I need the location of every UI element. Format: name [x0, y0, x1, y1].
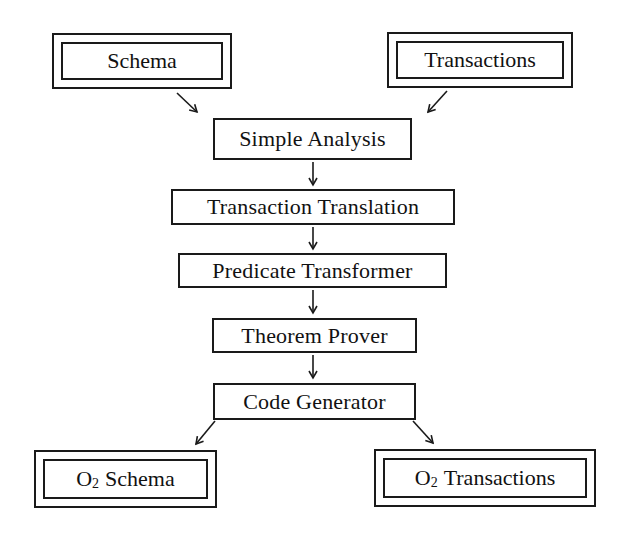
output-node-o2-transactions: O2Transactions [374, 449, 596, 507]
output-node-o2-transactions-prefix: O [415, 465, 431, 491]
output-node-o2-transactions-label: Transactions [444, 465, 556, 491]
step-transaction-translation-label: Transaction Translation [207, 194, 419, 220]
output-node-o2-schema-prefix: O [76, 466, 92, 492]
input-node-schema-label: Schema [107, 48, 177, 74]
input-node-schema: Schema [52, 33, 232, 89]
step-theorem-prover-label: Theorem Prover [241, 323, 387, 349]
output-node-o2-schema: O2Schema [34, 450, 217, 508]
input-node-schema-inner: Schema [61, 42, 223, 80]
step-simple-analysis: Simple Analysis [213, 118, 412, 160]
output-node-o2-schema-label: Schema [105, 466, 175, 492]
step-transaction-translation: Transaction Translation [171, 189, 455, 225]
step-predicate-transformer-label: Predicate Transformer [212, 258, 412, 284]
output-node-o2-schema-inner: O2Schema [43, 459, 208, 499]
output-node-o2-transactions-inner: O2Transactions [383, 458, 587, 498]
input-node-transactions-inner: Transactions [396, 41, 564, 79]
step-code-generator-label: Code Generator [243, 389, 386, 415]
output-node-o2-transactions-subscript: 2 [431, 475, 438, 491]
input-node-transactions: Transactions [387, 32, 573, 88]
arrow-code-generator-to-o2-schema [196, 421, 215, 444]
arrow-transactions-to-simple-analysis [428, 91, 447, 112]
input-node-transactions-label: Transactions [424, 47, 536, 73]
arrow-schema-to-simple-analysis [177, 93, 197, 112]
step-predicate-transformer: Predicate Transformer [178, 253, 447, 288]
arrow-code-generator-to-o2-transactions [413, 421, 433, 443]
step-simple-analysis-label: Simple Analysis [239, 126, 386, 152]
step-code-generator: Code Generator [213, 383, 416, 420]
step-theorem-prover: Theorem Prover [212, 318, 417, 353]
output-node-o2-schema-subscript: 2 [92, 476, 99, 492]
